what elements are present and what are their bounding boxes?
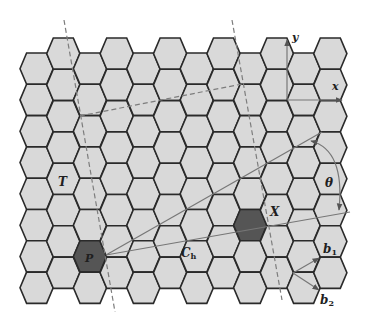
- hexagon-cell: [314, 101, 347, 132]
- hexagon-cell: [314, 69, 347, 100]
- hexagonal-lattice-diagram: T P X Ch θ y x b1 b2: [0, 0, 368, 321]
- graphene-hex-grid: [20, 38, 347, 303]
- hexagon-cell: [314, 38, 347, 69]
- label-b2: b2: [320, 293, 334, 308]
- label-x-point: X: [269, 205, 280, 219]
- label-b2-main: b: [320, 293, 328, 307]
- label-y-axis: y: [291, 31, 300, 44]
- label-t: T: [58, 175, 68, 189]
- nanotube-lattice-figure: T P X Ch θ y x b1 b2: [0, 0, 368, 321]
- label-p: P: [84, 252, 94, 265]
- hexagon-cell: [314, 132, 347, 163]
- label-b2-sub: 2: [328, 298, 334, 308]
- label-ch-main: C: [181, 246, 191, 260]
- label-theta: θ: [325, 176, 333, 190]
- label-b1-main: b: [323, 242, 331, 256]
- hexagon-cell: [314, 257, 347, 288]
- hexagon-cell: [314, 195, 347, 226]
- label-b1-sub: 1: [331, 247, 337, 257]
- label-x-axis: x: [331, 80, 339, 93]
- label-ch-sub: h: [191, 251, 197, 261]
